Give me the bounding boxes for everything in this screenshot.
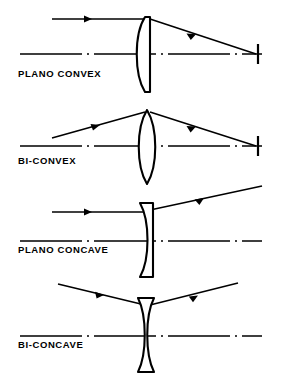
outgoing-ray-plano-concave [150,186,262,210]
panel-plano-concave: PLANO CONCAVE [18,186,262,277]
panel-bi-concave: BI-CONCAVE [18,283,262,372]
lens-diagram-page: PLANO CONVEX BI-CONVEX [0,0,282,390]
outgoing-ray-arrowhead-plano-convex [187,34,197,40]
panel-plano-convex: PLANO CONVEX [18,16,262,93]
lens-body-plano-concave [140,203,153,277]
lens-body-bi-convex [139,110,156,184]
incoming-ray-arrowhead-plano-concave [84,209,92,216]
panel-bi-convex: BI-CONVEX [18,110,262,184]
outgoing-ray-bi-convex [150,112,256,146]
outgoing-ray-arrowhead-bi-concave [189,296,198,303]
outgoing-ray-arrowhead-plano-concave [195,198,204,205]
lens-diagram-svg: PLANO CONVEX BI-CONVEX [0,0,282,390]
outgoing-ray-plano-convex [150,19,256,54]
outgoing-ray-bi-concave [150,283,238,305]
incoming-ray-arrowhead-plano-convex [84,16,92,23]
lens-label-plano-concave: PLANO CONCAVE [18,244,109,255]
lens-body-bi-concave [138,298,154,372]
outgoing-ray-arrowhead-bi-convex [187,126,197,132]
lens-label-bi-convex: BI-CONVEX [18,155,76,166]
lens-label-bi-concave: BI-CONCAVE [18,339,83,350]
incoming-ray-arrowhead-bi-convex [91,124,101,131]
lens-label-plano-convex: PLANO CONVEX [18,68,101,79]
lens-body-plano-convex [137,17,150,92]
incoming-ray-arrowhead-bi-concave [95,292,104,299]
